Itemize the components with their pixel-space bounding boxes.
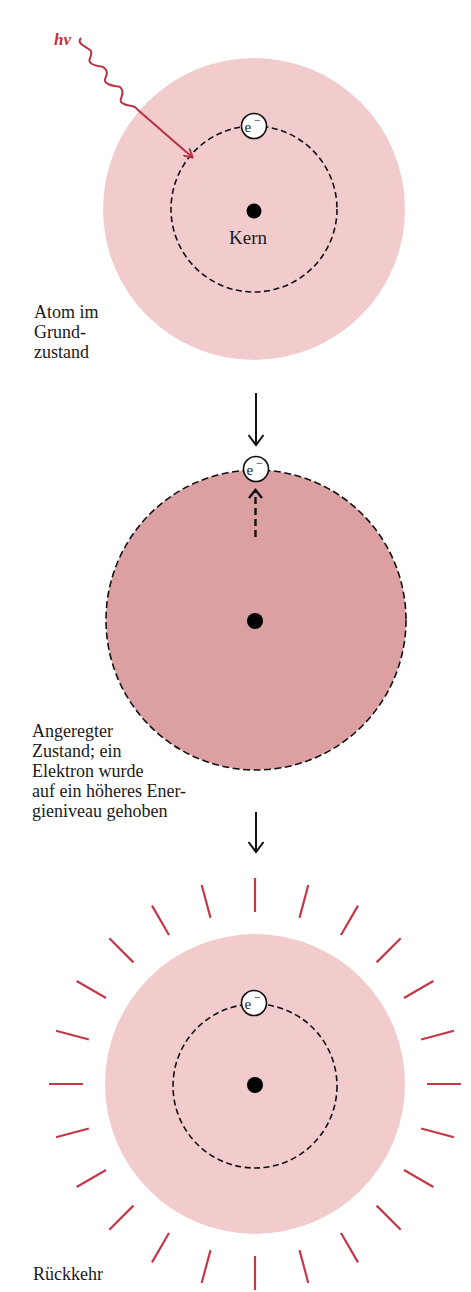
emission-ray bbox=[202, 885, 211, 918]
svg-text:e: e bbox=[247, 462, 254, 478]
electron-icon: e − bbox=[242, 113, 267, 139]
nucleus-icon bbox=[247, 1077, 263, 1093]
emission-ray bbox=[56, 1129, 89, 1138]
emission-ray bbox=[377, 1206, 401, 1230]
emission-ray bbox=[152, 1233, 169, 1262]
photon-label: hv bbox=[54, 30, 71, 50]
electron-icon: e − bbox=[242, 990, 267, 1016]
nucleus-icon bbox=[247, 204, 262, 219]
atom-excitation-diagram: e − e − e − bbox=[0, 0, 471, 1292]
svg-text:−: − bbox=[256, 456, 263, 470]
down-arrow-icon bbox=[249, 812, 264, 852]
return-caption: Rückkehr bbox=[33, 1264, 103, 1284]
emission-ray bbox=[77, 981, 106, 998]
down-arrow-icon bbox=[249, 393, 264, 445]
nucleus-icon bbox=[247, 613, 263, 629]
nucleus-label: Kern bbox=[229, 227, 267, 249]
emission-ray bbox=[152, 906, 169, 935]
emission-ray bbox=[341, 1233, 358, 1262]
emission-ray bbox=[77, 1170, 106, 1187]
emission-ray bbox=[300, 885, 309, 918]
emission-ray bbox=[341, 906, 358, 935]
excited-state-caption: Angeregter Zustand; ein Elektron wurde a… bbox=[32, 721, 186, 821]
svg-text:−: − bbox=[254, 990, 261, 1004]
svg-text:e: e bbox=[245, 996, 252, 1012]
ground-state-atom: e − bbox=[103, 58, 405, 360]
emission-ray bbox=[404, 981, 433, 998]
svg-text:e: e bbox=[245, 119, 252, 135]
emission-ray bbox=[404, 1170, 433, 1187]
emission-ray bbox=[377, 938, 401, 962]
emission-ray bbox=[421, 1129, 454, 1138]
return-state-atom: e − bbox=[49, 878, 461, 1290]
emission-ray bbox=[109, 938, 133, 962]
emission-ray bbox=[300, 1250, 309, 1283]
emission-ray bbox=[421, 1031, 454, 1040]
emission-ray bbox=[202, 1250, 211, 1283]
emission-ray bbox=[109, 1206, 133, 1230]
electron-icon: e − bbox=[244, 456, 269, 482]
emission-ray bbox=[56, 1031, 89, 1040]
svg-text:−: − bbox=[254, 113, 261, 127]
ground-state-caption: Atom im Grund- zustand bbox=[34, 302, 99, 362]
